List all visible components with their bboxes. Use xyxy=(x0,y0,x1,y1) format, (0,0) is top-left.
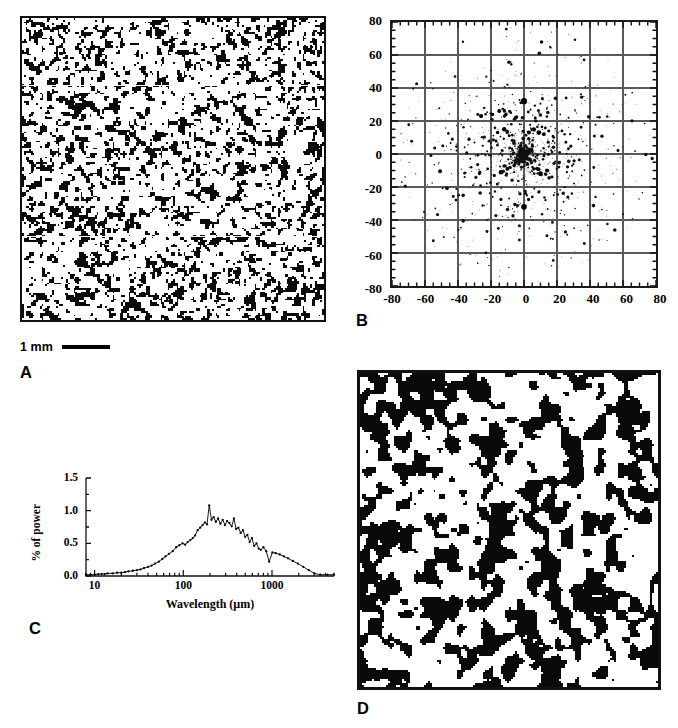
panel-c-y-tick-0p0: 0.0 xyxy=(64,570,78,582)
panel-b-x-axis-ticklabels: -80-60-40-20020406080 xyxy=(390,292,658,312)
panel-b-x-tick-neg20: -20 xyxy=(484,292,501,305)
panel-c-plot-area xyxy=(86,478,334,576)
panel-b-x-tick-40: 40 xyxy=(587,292,600,305)
panel-b-scatter-plot: 806040200-20-40-60-80 -80-60-40-20020406… xyxy=(356,8,668,308)
panel-b-y-tick-60: 60 xyxy=(369,47,382,60)
coarse-blob-texture xyxy=(360,373,658,687)
panel-c-line-chart: % of power 0.00.51.01.5 101001000 Wavele… xyxy=(24,470,344,620)
panel-b-y-axis-ticklabels: 806040200-20-40-60-80 xyxy=(356,20,386,288)
panel-b-y-tick-neg60: -60 xyxy=(365,248,382,261)
panel-b-x-tick-0: 0 xyxy=(523,292,530,305)
panel-label-d: D xyxy=(357,700,369,717)
scale-bar-line xyxy=(62,345,110,349)
panel-d-image xyxy=(357,370,661,690)
panel-b-x-tick-20: 20 xyxy=(553,292,566,305)
panel-b-y-tick-20: 20 xyxy=(369,114,382,127)
panel-b-y-tick-40: 40 xyxy=(369,81,382,94)
panel-c-x-axis-label: Wavelength (µm) xyxy=(86,598,334,610)
panel-c-y-tick-1p0: 1.0 xyxy=(64,505,78,517)
panel-label-c: C xyxy=(29,620,41,637)
panel-c-y-tick-0p5: 0.5 xyxy=(64,538,78,550)
panel-b-x-tick-60: 60 xyxy=(620,292,633,305)
panel-c-y-axis-ticklabels: 0.00.51.01.5 xyxy=(24,478,82,576)
panel-b-x-tick-80: 80 xyxy=(654,292,667,305)
panel-b-y-tick-0: 0 xyxy=(376,148,383,161)
panel-c-y-tick-1p5: 1.5 xyxy=(64,472,78,484)
panel-b-y-tick-neg80: -80 xyxy=(365,282,382,295)
panel-a-image xyxy=(20,16,326,322)
panel-d-frame xyxy=(357,370,661,690)
panel-c-x-tick-10: 10 xyxy=(89,580,101,592)
panel-c-x-axis-ticklabels: 101001000 xyxy=(86,580,334,596)
panel-b-plot-area xyxy=(390,20,658,288)
panel-b-y-tick-80: 80 xyxy=(369,14,382,27)
panel-c-x-tick-1000: 1000 xyxy=(261,580,284,592)
panel-b-y-tick-neg40: -40 xyxy=(365,215,382,228)
panel-b-x-tick-neg80: -80 xyxy=(383,292,400,305)
panel-b-y-tick-neg20: -20 xyxy=(365,181,382,194)
panel-a-frame xyxy=(20,16,326,322)
scale-bar: 1 mm xyxy=(20,338,110,356)
panel-label-a: A xyxy=(20,364,32,381)
panel-c-x-tick-100: 100 xyxy=(175,580,192,592)
panel-b-x-tick-neg60: -60 xyxy=(417,292,434,305)
fine-speckle-texture xyxy=(22,18,324,320)
panel-label-b: B xyxy=(356,312,368,329)
scale-bar-label: 1 mm xyxy=(20,341,53,354)
panel-b-x-tick-neg40: -40 xyxy=(450,292,467,305)
